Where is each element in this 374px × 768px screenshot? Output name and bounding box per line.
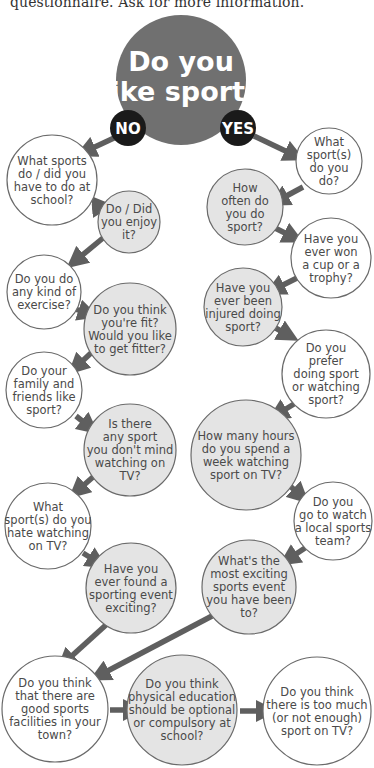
question-text: sport? (225, 320, 261, 334)
question-text: sport(s) (307, 148, 352, 162)
question-text: sports event (213, 580, 285, 594)
question-text: that there are (15, 689, 95, 703)
question-node-q_family: Do yourfamily andfriends likesport? (6, 352, 82, 428)
question-text: go to watch (299, 508, 367, 522)
question-text: How many hours (197, 429, 294, 443)
question-node-q_pe: Do you thinkphysical educationshould be … (127, 655, 237, 765)
question-node-q_dontmind: Is thereany sportyou don't mindwatching … (84, 404, 176, 496)
question-text: town? (38, 728, 72, 742)
question-node-q_found: Have youever found asporting eventexciti… (86, 543, 176, 633)
question-text: or compulsory at (133, 716, 231, 730)
question-text: exercise? (17, 298, 71, 312)
question-text: do you (309, 161, 348, 175)
badge-label: YES (221, 120, 254, 138)
question-text: school? (161, 729, 204, 743)
question-node-q_prefer: Do youpreferdoing sportor watchingsport? (282, 330, 370, 418)
question-node-q_local: Do yougo to watcha local sportsteam? (294, 482, 372, 560)
question-text: Do you (306, 341, 347, 355)
question-text: to get fitter? (94, 342, 166, 356)
question-text: sport? (227, 220, 263, 234)
question-text: have to do at (14, 180, 91, 194)
badge-no: NO (110, 110, 146, 146)
question-text: often do (221, 194, 269, 208)
question-node-q_hate: Whatsport(s) do youhate watchingon TV? (4, 483, 91, 569)
question-text: Do you think (93, 303, 167, 317)
question-text: on TV? (29, 539, 68, 553)
question-node-q_fit: Do you thinkyou're fit?Would you liketo … (84, 283, 176, 375)
question-text: sport on TV? (210, 468, 282, 482)
flowchart: What sportsdo / did youhave to do atscho… (0, 0, 374, 768)
question-text: doing sport (293, 367, 359, 381)
question-text: ever been (214, 294, 272, 308)
question-text: sporting event (89, 588, 173, 602)
question-node-q_exercise: Do you doany kind ofexercise? (7, 255, 81, 329)
question-text: Is there (108, 417, 151, 431)
title-text: like sport? (101, 76, 260, 107)
question-text: good sports (21, 702, 89, 716)
question-text: What sports (17, 154, 86, 168)
question-text: should be optional (129, 703, 235, 717)
question-text: Would you like (88, 329, 172, 343)
question-text: or watching (292, 380, 360, 394)
question-text: you're fit? (101, 316, 158, 330)
question-text: What's the (218, 554, 280, 568)
question-text: do / did you (18, 167, 86, 181)
arrow-connector (76, 477, 93, 492)
question-text: you don't mind (87, 443, 174, 457)
question-text: a local sports (295, 521, 372, 535)
question-text: week watching (203, 455, 289, 469)
question-text: family and (14, 377, 75, 391)
question-text: a cup or a (302, 258, 360, 272)
badge-yes: YES (220, 110, 256, 146)
arrow-connector (287, 548, 305, 560)
question-text: watching on (95, 456, 165, 470)
question-text: any kind of (12, 285, 77, 299)
question-text: (or not enough) (272, 711, 362, 725)
question-text: Do you do (15, 272, 74, 286)
question-text: it? (122, 228, 136, 242)
question-text: facilities in your (9, 715, 101, 729)
arrow-connector (75, 353, 91, 368)
question-text: you enjoy (101, 215, 157, 229)
question-text: sport on TV? (281, 724, 353, 738)
question-text: ever found a (94, 575, 167, 589)
question-node-q_enjoy: Do / Didyou enjoyit? (98, 191, 160, 253)
question-text: to? (240, 606, 258, 620)
question-text: What (314, 135, 345, 149)
question-text: Do your (21, 364, 67, 378)
question-text: What (33, 500, 64, 514)
question-text: injured doing (205, 307, 281, 321)
question-node-q_school: What sportsdo / did youhave to do atscho… (7, 135, 97, 225)
question-node-q_facilities: Do you thinkthat there aregood sportsfac… (2, 656, 108, 762)
question-text: Have you (104, 562, 158, 576)
question-node-q_whatsport: Whatsport(s)do youdo? (296, 128, 362, 194)
question-text: Do you think (18, 676, 92, 690)
arrow-connector (64, 624, 107, 663)
question-text: school? (31, 193, 74, 207)
question-node-q_exciting: What's themost excitingsports eventyou h… (202, 540, 296, 634)
question-text: do? (319, 174, 339, 188)
question-text: Do / Did (106, 202, 152, 216)
question-text: Do you think (145, 677, 219, 691)
question-text: any sport (103, 430, 158, 444)
arrow-connector (254, 136, 296, 156)
question-circles: What sportsdo / did youhave to do atscho… (2, 128, 372, 765)
arrow-connector (84, 138, 114, 152)
question-text: most exciting (210, 567, 288, 581)
arrow-connector (74, 238, 103, 262)
question-text: sport? (308, 393, 344, 407)
question-text: sport? (26, 403, 62, 417)
question-text: TV? (119, 469, 141, 483)
question-node-q_toomuch: Do you thinkthere is too much(or not eno… (263, 657, 371, 765)
question-text: do you spend a (202, 442, 290, 456)
question-text: you do (225, 207, 264, 221)
question-text: Have you (304, 232, 358, 246)
title-text: Do you (128, 46, 234, 77)
question-node-q_hours: How many hoursdo you spend aweek watchin… (191, 400, 301, 510)
question-text: you have been (206, 593, 291, 607)
arrow-connector (76, 416, 91, 428)
question-text: Have you (216, 281, 270, 295)
question-text: sport(s) do you (4, 513, 91, 527)
question-node-q_won: Have youever wona cup or atrophy? (291, 218, 371, 298)
question-text: prefer (309, 354, 344, 368)
